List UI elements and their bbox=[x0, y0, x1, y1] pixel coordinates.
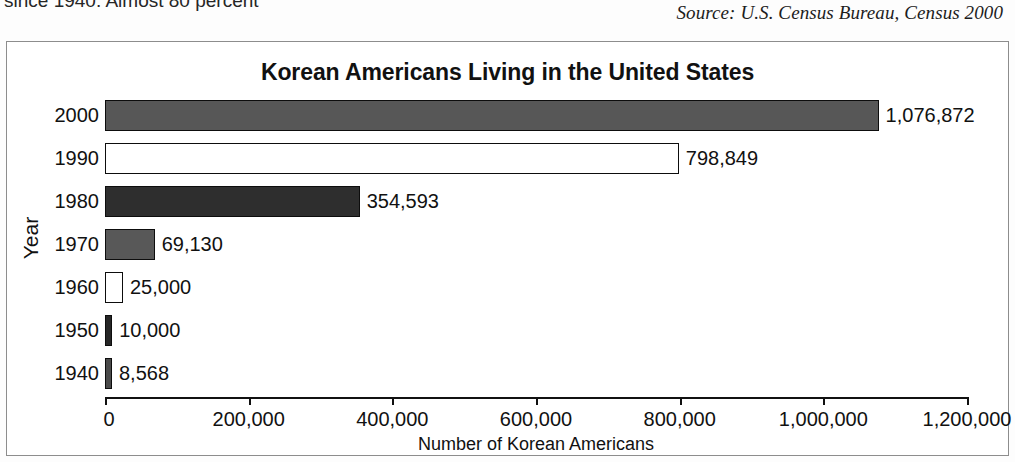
bar-and-value: 1,076,872 bbox=[105, 94, 975, 137]
bar-value-label: 10,000 bbox=[119, 319, 180, 342]
x-axis-tick-label: 0 bbox=[103, 408, 114, 431]
bar-and-value: 69,130 bbox=[105, 223, 223, 266]
bar-and-value: 10,000 bbox=[105, 309, 180, 352]
bar-value-label: 1,076,872 bbox=[886, 104, 975, 127]
body-text-fragment: since 1940. Almost 80 percent bbox=[4, 0, 424, 14]
bar-chart-plot: Year 20001,076,8721990798,8491980354,593… bbox=[7, 42, 1010, 457]
bar-row: 19408,568 bbox=[7, 352, 1010, 395]
bar-row-year-label: 1990 bbox=[27, 147, 99, 170]
bar-and-value: 798,849 bbox=[105, 137, 758, 180]
bar bbox=[105, 186, 360, 217]
chart-frame: Korean Americans Living in the United St… bbox=[6, 41, 1009, 456]
x-axis-tick bbox=[823, 397, 825, 405]
x-axis-tick-label: 400,000 bbox=[356, 408, 428, 431]
bar-row: 195010,000 bbox=[7, 309, 1010, 352]
x-axis-tick bbox=[249, 397, 251, 405]
bar-rows: 20001,076,8721990798,8491980354,59319706… bbox=[7, 94, 1010, 395]
bar-row: 1990798,849 bbox=[7, 137, 1010, 180]
x-axis-tick bbox=[680, 397, 682, 405]
x-axis-tick bbox=[536, 397, 538, 405]
bar bbox=[105, 143, 679, 174]
bar-row: 196025,000 bbox=[7, 266, 1010, 309]
figure-page: since 1940. Almost 80 percent Source: U.… bbox=[0, 0, 1015, 462]
x-axis-tick-label: 200,000 bbox=[213, 408, 285, 431]
x-axis-tick bbox=[105, 397, 107, 405]
bar-value-label: 8,568 bbox=[119, 362, 169, 385]
bar-row-year-label: 1960 bbox=[27, 276, 99, 299]
bar-row-year-label: 1950 bbox=[27, 319, 99, 342]
x-axis-tick bbox=[967, 397, 969, 405]
bar-value-label: 69,130 bbox=[162, 233, 223, 256]
bar bbox=[105, 100, 879, 131]
bar-row: 1980354,593 bbox=[7, 180, 1010, 223]
bar-row-year-label: 1940 bbox=[27, 362, 99, 385]
bar-row: 197069,130 bbox=[7, 223, 1010, 266]
x-axis-tick-label: 1,000,000 bbox=[779, 408, 868, 431]
bar-row-year-label: 2000 bbox=[27, 104, 99, 127]
bar-and-value: 25,000 bbox=[105, 266, 191, 309]
bar bbox=[105, 315, 112, 346]
bar-row: 20001,076,872 bbox=[7, 94, 1010, 137]
bar-value-label: 354,593 bbox=[367, 190, 439, 213]
bar-and-value: 354,593 bbox=[105, 180, 439, 223]
bar bbox=[105, 272, 123, 303]
bar-value-label: 798,849 bbox=[686, 147, 758, 170]
x-axis-tick-label: 600,000 bbox=[500, 408, 572, 431]
bar bbox=[105, 358, 112, 389]
x-axis-tick-label: 1,200,000 bbox=[923, 408, 1012, 431]
source-credit: Source: U.S. Census Bureau, Census 2000 bbox=[676, 2, 1003, 24]
x-axis-tick bbox=[392, 397, 394, 405]
x-axis-tick-label: 800,000 bbox=[644, 408, 716, 431]
bar-row-year-label: 1980 bbox=[27, 190, 99, 213]
bar-and-value: 8,568 bbox=[105, 352, 169, 395]
bar bbox=[105, 229, 155, 260]
x-axis-title: Number of Korean Americans bbox=[105, 434, 967, 455]
bar-value-label: 25,000 bbox=[130, 276, 191, 299]
bar-row-year-label: 1970 bbox=[27, 233, 99, 256]
